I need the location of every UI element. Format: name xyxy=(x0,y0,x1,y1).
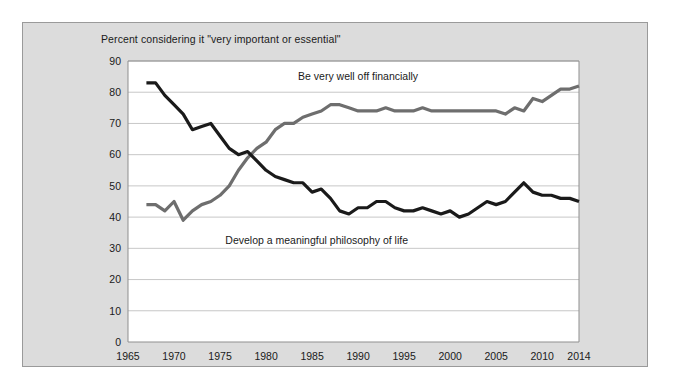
ytick-label-30: 30 xyxy=(109,242,121,254)
xtick-label-1975: 1975 xyxy=(208,350,232,362)
line-chart: 0102030405060708090196519701975198019851… xyxy=(23,23,649,368)
ytick-label-20: 20 xyxy=(109,273,121,285)
xtick-label-1995: 1995 xyxy=(392,350,416,362)
ytick-label-70: 70 xyxy=(109,117,121,129)
figure-panel: Percent considering it "very important o… xyxy=(22,22,648,367)
ytick-label-60: 60 xyxy=(109,148,121,160)
xtick-label-2010: 2010 xyxy=(531,350,555,362)
ytick-label-90: 90 xyxy=(109,55,121,67)
xtick-label-1985: 1985 xyxy=(300,350,324,362)
ytick-label-40: 40 xyxy=(109,211,121,223)
series-annotation-philosophy: Develop a meaningful philosophy of life xyxy=(225,234,408,246)
chart-plot-area: 0102030405060708090196519701975198019851… xyxy=(23,23,649,368)
plot-background xyxy=(128,61,579,342)
xtick-label-1970: 1970 xyxy=(162,350,186,362)
ytick-label-10: 10 xyxy=(109,305,121,317)
xtick-label-1980: 1980 xyxy=(254,350,278,362)
xtick-label-1965: 1965 xyxy=(116,350,140,362)
xtick-label-2014: 2014 xyxy=(567,350,591,362)
xtick-label-2000: 2000 xyxy=(438,350,462,362)
ytick-label-80: 80 xyxy=(109,86,121,98)
series-annotation-financially: Be very well off financially xyxy=(298,70,419,82)
ytick-label-0: 0 xyxy=(115,336,121,348)
xtick-label-1990: 1990 xyxy=(346,350,370,362)
xtick-label-2005: 2005 xyxy=(484,350,508,362)
ytick-label-50: 50 xyxy=(109,180,121,192)
